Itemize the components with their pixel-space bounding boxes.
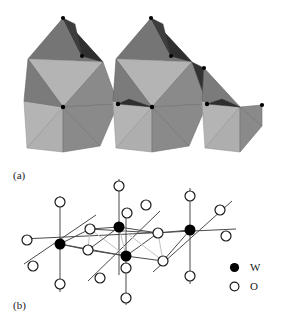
legend-row-tungsten: W (228, 258, 280, 277)
octahedron-lower-right (202, 68, 262, 152)
legend: W O (228, 258, 280, 298)
filled-circle-icon (228, 261, 241, 274)
octahedra-diagram (0, 0, 283, 165)
legend-label-tungsten: W (250, 262, 260, 273)
panel-a-polyhedral-model (0, 0, 283, 165)
legend-row-oxygen: O (228, 277, 280, 296)
legend-label-oxygen: O (250, 281, 258, 292)
ball-stick-diagram (0, 160, 283, 325)
panel-label-a: (a) (13, 169, 25, 181)
figure-container: (a) (b) W O (0, 0, 283, 325)
panel-label-b: (b) (13, 299, 26, 311)
bond-lines (22, 179, 236, 305)
open-circle-icon (228, 280, 241, 293)
panel-b-ball-and-stick-model (0, 160, 283, 325)
